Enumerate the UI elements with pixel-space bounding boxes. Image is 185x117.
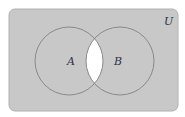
set-b-label: B [113, 55, 122, 68]
venn-diagram: A B U [0, 0, 185, 117]
set-a-label: A [66, 55, 75, 68]
universe-label: U [164, 15, 174, 28]
